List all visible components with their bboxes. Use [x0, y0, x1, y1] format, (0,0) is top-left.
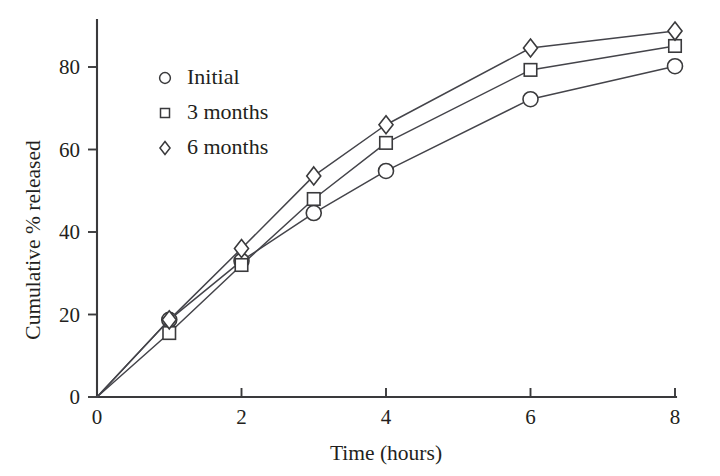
chart-series-circle	[97, 59, 683, 397]
y-tick-label: 40	[59, 220, 80, 244]
x-axis-ticks: 02468	[92, 388, 681, 429]
legend-item-3-months: 3 months	[161, 99, 269, 124]
data-point-marker	[523, 92, 538, 107]
y-tick-label: 80	[59, 55, 80, 79]
legend-label: 6 months	[187, 134, 268, 159]
y-tick-label: 20	[59, 303, 80, 327]
legend-marker-diamond	[160, 142, 170, 155]
x-tick-label: 4	[381, 405, 392, 429]
data-point-marker	[235, 259, 248, 272]
chart-axes	[97, 20, 676, 397]
legend-item-initial: Initial	[160, 64, 240, 89]
legend-item-6-months: 6 months	[160, 134, 268, 159]
series-line	[97, 46, 675, 397]
chart-legend: Initial3 months6 months	[160, 64, 269, 159]
data-point-marker	[308, 193, 321, 206]
x-axis-title: Time (hours)	[330, 441, 442, 465]
y-tick-label: 0	[70, 385, 81, 409]
y-tick-label: 60	[59, 138, 80, 162]
data-point-marker	[668, 22, 682, 40]
chart-series-square	[97, 40, 681, 397]
chart-series-diamond	[97, 22, 682, 397]
data-point-marker	[523, 39, 537, 57]
x-tick-label: 6	[525, 405, 536, 429]
x-tick-label: 8	[670, 405, 681, 429]
data-point-marker	[668, 59, 683, 74]
y-axis-title: Cumulative % released	[21, 140, 45, 340]
data-point-marker	[524, 64, 537, 76]
chart-series-layer	[97, 22, 683, 397]
line-chart-plot: 020406080 02468 Time (hours) Cumulative …	[0, 0, 720, 476]
chart-figure: 020406080 02468 Time (hours) Cumulative …	[0, 0, 720, 476]
data-point-marker	[379, 163, 394, 178]
legend-marker-circle	[160, 73, 171, 84]
data-point-marker	[306, 206, 321, 221]
legend-marker-square	[161, 109, 170, 118]
data-point-marker	[379, 116, 393, 134]
y-axis-ticks: 020406080	[59, 55, 97, 409]
data-point-marker	[307, 167, 321, 185]
x-tick-label: 0	[92, 405, 103, 429]
x-tick-label: 2	[236, 405, 247, 429]
data-point-marker	[669, 40, 682, 53]
data-point-marker	[380, 137, 393, 150]
legend-label: 3 months	[187, 99, 268, 124]
legend-label: Initial	[187, 64, 240, 89]
